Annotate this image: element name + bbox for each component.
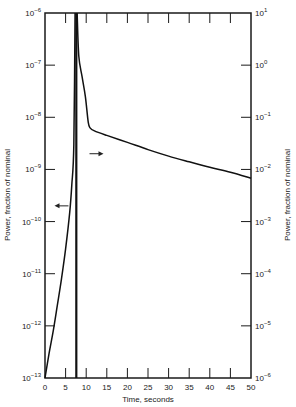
y-right-tick-label: 10−2 — [255, 163, 271, 174]
arrow-right-head — [99, 151, 104, 156]
left-y-axis: 10−610−710−810−910−1010−1110−1210−13 — [22, 7, 55, 383]
x-tick-label: 35 — [185, 383, 194, 392]
y-left-tick-label: 10−10 — [22, 216, 42, 227]
x-tick-label: 50 — [247, 383, 256, 392]
x-tick-label: 40 — [205, 383, 214, 392]
y-right-tick-label: 10−1 — [255, 111, 271, 122]
y-right-tick-label: 100 — [255, 59, 268, 70]
x-tick-label: 45 — [226, 383, 235, 392]
power-vs-time-chart: 05101520253035404550 10−610−710−810−910−… — [0, 0, 296, 407]
x-tick-label: 30 — [164, 383, 173, 392]
y-right-tick-label: 10−3 — [255, 216, 271, 227]
x-tick-label: 5 — [63, 383, 68, 392]
power-rise-curve — [45, 13, 75, 378]
y-left-tick-label: 10−6 — [25, 7, 41, 18]
x-tick-label: 10 — [82, 383, 91, 392]
y-left-tick-label: 10−11 — [22, 268, 41, 279]
y-left-tick-label: 10−8 — [25, 111, 41, 122]
x-tick-label: 15 — [102, 383, 111, 392]
x-tick-label: 25 — [144, 383, 153, 392]
y-right-tick-label: 101 — [255, 7, 268, 18]
left-y-axis-title: Power, fraction of nominal — [3, 149, 12, 241]
y-right-tick-label: 10−4 — [255, 268, 271, 279]
x-tick-label: 0 — [43, 383, 48, 392]
power-decay-curve — [77, 13, 251, 178]
axis-indicator-arrows — [54, 151, 103, 208]
arrow-left-head — [54, 203, 59, 208]
right-y-axis: 10110010−110−210−310−410−510−6 — [241, 7, 271, 383]
y-left-tick-label: 10−9 — [25, 163, 41, 174]
y-left-tick-label: 10−7 — [25, 59, 41, 70]
x-axis-title: Time, seconds — [122, 395, 174, 404]
y-left-tick-label: 10−12 — [22, 320, 42, 331]
y-right-tick-label: 10−5 — [255, 320, 271, 331]
x-tick-label: 20 — [123, 383, 132, 392]
y-left-tick-label: 10−13 — [22, 372, 42, 383]
right-y-axis-title: Power, fraction of nominal — [283, 149, 292, 241]
plot-curves — [45, 13, 251, 378]
y-right-tick-label: 10−6 — [255, 372, 271, 383]
